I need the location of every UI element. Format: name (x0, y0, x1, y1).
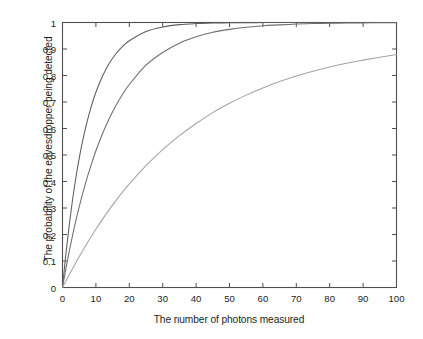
axis-tick-marks (63, 23, 397, 288)
curve-shallow-curve (63, 55, 397, 288)
x-axis-tick-labels: 0102030405060708090100 (0, 293, 423, 309)
chart-figure: The probability of the eavesdropper bein… (0, 0, 423, 339)
curve-middle-curve (63, 23, 397, 288)
x-tick-label: 100 (377, 293, 417, 304)
curve-steep-curve (63, 23, 397, 288)
data-curves (63, 23, 397, 288)
x-axis-title: The number of photons measured (62, 314, 396, 325)
plot-area (0, 0, 423, 339)
plot-frame (63, 23, 397, 288)
